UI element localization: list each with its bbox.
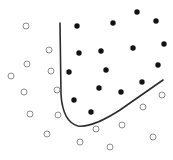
hollow-point [119,122,125,128]
filled-point [103,67,108,72]
hollow-point [77,139,83,145]
hollow-point [140,104,146,110]
hollow-point [24,61,30,67]
hollow-point [48,68,54,74]
filled-point [161,41,166,46]
hollow-point [159,92,165,98]
filled-point [74,23,79,28]
hollow-point [23,23,29,29]
hollow-point [27,111,33,117]
filled-point [66,69,71,74]
filled-point [130,45,135,50]
filled-point [110,20,115,25]
hollow-point [46,47,52,53]
hollow-point [54,87,60,93]
filled-point [118,89,123,94]
hollow-point [55,112,61,118]
hollow-point [44,131,50,137]
filled-point [98,48,103,53]
hollow-point [21,89,27,95]
filled-point [139,79,144,84]
filled-point [153,18,158,23]
hollow-point [8,73,14,79]
filled-point [134,9,139,14]
decision-boundary-diagram [0,0,173,160]
filled-point [88,109,93,114]
filled-point [71,97,76,102]
hollow-point [107,144,113,150]
filled-point [76,50,81,55]
hollow-point [150,134,156,140]
filled-point [155,62,160,67]
filled-point [96,85,101,90]
hollow-point [93,126,99,132]
